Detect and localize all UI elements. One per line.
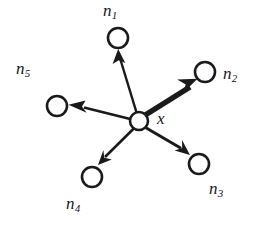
- edge-x-to-n2: [145, 79, 198, 116]
- edge-line-n1: [120, 58, 137, 113]
- node-circle-n2[interactable]: [195, 62, 215, 82]
- edge-line-n3: [145, 127, 181, 148]
- node-label-n4-base: n: [66, 194, 75, 213]
- node-label-n1-base: n: [103, 1, 112, 20]
- node-label-x: x: [157, 110, 165, 127]
- node-circle-n4[interactable]: [82, 167, 102, 187]
- node-label-n5-subscript: 5: [25, 67, 31, 79]
- node-label-n4-subscript: 4: [75, 202, 81, 214]
- edge-x-to-n5: [69, 101, 131, 119]
- edge-line-n4: [105, 128, 134, 157]
- edge-x-to-n1: [113, 49, 137, 112]
- node-label-n3: n3: [209, 180, 223, 199]
- node-label-n5: n5: [16, 60, 30, 79]
- node-label-n1-subscript: 1: [112, 9, 118, 21]
- node-label-n3-base: n: [209, 179, 218, 198]
- node-circle-n5[interactable]: [47, 96, 67, 116]
- node-circle-x[interactable]: [130, 112, 148, 130]
- edge-x-to-n4: [98, 128, 134, 165]
- node-neighborhood-figure: n1 n2 n3 n4 n5 x: [0, 0, 262, 232]
- node-label-n2: n2: [223, 65, 237, 84]
- node-label-n5-base: n: [16, 59, 25, 78]
- node-label-n3-subscript: 3: [218, 187, 224, 199]
- node-label-n1: n1: [103, 2, 117, 21]
- node-circle-n3[interactable]: [189, 154, 209, 174]
- arrowhead-n1: [113, 49, 126, 64]
- node-label-n4: n4: [66, 195, 80, 214]
- edge-line-n5: [84, 108, 130, 120]
- edge-x-to-n3: [145, 127, 190, 155]
- arrowhead-n5: [69, 101, 87, 113]
- node-label-n2-base: n: [223, 64, 232, 83]
- node-label-n2-subscript: 2: [232, 72, 238, 84]
- node-circle-n1[interactable]: [108, 28, 128, 48]
